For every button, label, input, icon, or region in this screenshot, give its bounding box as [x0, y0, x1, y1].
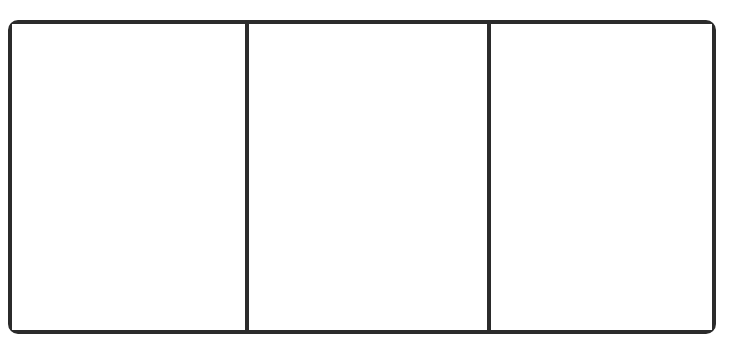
three-panel-frame [8, 20, 716, 334]
panel-2 [245, 24, 487, 330]
panel-1 [12, 24, 245, 330]
panel-3 [487, 24, 712, 330]
